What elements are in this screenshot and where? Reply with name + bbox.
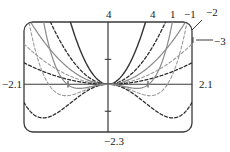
curve-label-top-2: 4 [150, 9, 156, 20]
curve-label-top-4: −1 [184, 9, 196, 20]
axis-label-x-max: 2.1 [199, 79, 213, 90]
curve-label-top-1: 4 [106, 9, 112, 20]
plot-canvas [0, 0, 230, 152]
curve-label-top-5: −2 [206, 7, 218, 18]
curve-label-right-pointer: −3 [214, 36, 226, 47]
figure-container: −2.1 2.1 −2.3 4 4 1 −1 −2 −3 [0, 0, 230, 152]
leader-line-minus2 [192, 20, 202, 30]
axis-label-x-min: −2.1 [2, 79, 22, 90]
curve-label-top-3: 1 [170, 9, 176, 20]
axis-label-y-min: −2.3 [104, 136, 124, 147]
